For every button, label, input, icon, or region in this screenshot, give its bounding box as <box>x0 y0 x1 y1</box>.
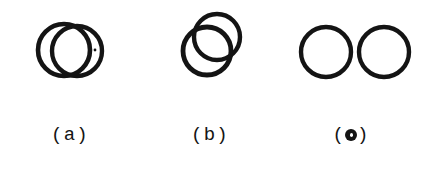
panel-c-caption-suffix: ) <box>357 124 370 146</box>
panel-c-artwork <box>281 0 421 110</box>
circle-lower-left <box>183 27 231 75</box>
panel-b-artwork <box>140 0 280 110</box>
figure-sheet: (a) (b) () <box>0 0 421 171</box>
panel-c-caption: () <box>281 122 421 148</box>
panel-a-artwork <box>0 0 140 110</box>
ink-speck-icon <box>94 49 97 52</box>
circle-right <box>359 27 409 77</box>
panel-a-caption: (a) <box>0 122 140 148</box>
circle-left <box>301 27 351 77</box>
figure-panel-c: () <box>281 0 421 171</box>
panel-c-caption-prefix: ( <box>333 124 346 146</box>
panel-b-caption: (b) <box>140 122 280 148</box>
figure-panel-b: (b) <box>140 0 280 171</box>
panel-c-caption-letter-blot <box>345 129 357 141</box>
figure-panel-a: (a) <box>0 0 140 171</box>
